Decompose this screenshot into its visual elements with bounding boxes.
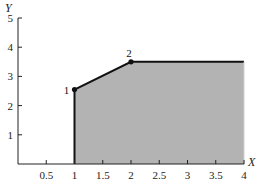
x-tick-label: 2: [128, 169, 134, 181]
point-label: 2: [126, 47, 132, 59]
x-tick-label: 2.5: [152, 169, 166, 181]
chart: 0.511.522.533.54 12345 X Y 12: [0, 0, 259, 188]
point-label: 1: [64, 84, 70, 96]
x-tick-label: 1.5: [96, 169, 110, 181]
x-tick-label: 3: [185, 169, 191, 181]
x-tick-label: 1: [72, 169, 78, 181]
point-marker: [72, 87, 77, 92]
y-tick-label: 4: [8, 41, 14, 53]
point-marker: [128, 59, 133, 64]
x-tick-label: 3.5: [209, 169, 223, 181]
y-ticks: 12345: [8, 12, 23, 141]
y-tick-label: 1: [8, 129, 14, 141]
y-tick-label: 3: [8, 70, 14, 82]
x-tick-label: 0.5: [39, 169, 53, 181]
x-tick-label: 4: [241, 169, 247, 181]
x-axis-title: X: [247, 155, 256, 169]
y-tick-label: 2: [8, 100, 14, 112]
